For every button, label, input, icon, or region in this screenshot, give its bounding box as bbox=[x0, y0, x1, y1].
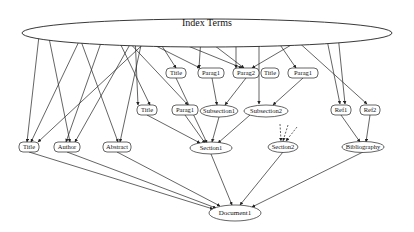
node-bibliography: Bibliography bbox=[342, 142, 384, 153]
edge-arrow bbox=[218, 115, 250, 143]
edge-arrow bbox=[120, 36, 143, 142]
node-document1: Document1 bbox=[209, 205, 261, 221]
edge-arrow bbox=[240, 152, 283, 205]
node-label: Title bbox=[264, 69, 276, 76]
node-label: Parag1 bbox=[176, 106, 194, 113]
edge-arrow bbox=[212, 78, 217, 105]
node-label: Title bbox=[170, 69, 182, 76]
node-label: Section2 bbox=[272, 143, 295, 150]
node-subsection1: Subsection1 bbox=[200, 105, 238, 117]
node-label: Ref1 bbox=[335, 106, 348, 113]
node-title: Title bbox=[166, 68, 186, 78]
edge-arrow bbox=[366, 115, 370, 142]
node-parag1: Parag1 bbox=[198, 68, 224, 78]
edges bbox=[27, 27, 370, 209]
node-ref1: Ref1 bbox=[331, 105, 351, 115]
edge-arrow bbox=[273, 78, 303, 105]
node-label: Parag2 bbox=[237, 69, 255, 76]
edge-arrow bbox=[252, 152, 363, 207]
edge-arrow bbox=[38, 36, 152, 142]
dashed-edge-arrow bbox=[280, 124, 281, 141]
node-label: Parag1 bbox=[294, 69, 312, 76]
edge-arrow bbox=[29, 152, 213, 209]
edge-arrow bbox=[66, 37, 103, 142]
node-label: Index Terms bbox=[182, 17, 232, 28]
edge-arrow bbox=[341, 115, 360, 142]
node-parag1: Parag1 bbox=[172, 105, 198, 115]
node-author: Author bbox=[54, 142, 80, 152]
node-title: Title bbox=[19, 142, 39, 152]
edge-arrow bbox=[326, 35, 340, 104]
edge-arrow bbox=[27, 27, 40, 142]
node-label: Subsection1 bbox=[203, 107, 235, 114]
edge-arrow bbox=[147, 115, 200, 143]
node-label: Author bbox=[58, 143, 77, 150]
edge-arrow bbox=[338, 35, 345, 104]
node-label: Document1 bbox=[219, 209, 252, 217]
node-section2: Section2 bbox=[268, 142, 298, 153]
node-label: Section1 bbox=[200, 144, 223, 151]
dashed-edge-arrow bbox=[283, 125, 288, 141]
nodes: Index TermsTitleParag1Parag2TitleParag1T… bbox=[19, 17, 392, 221]
edge-arrow bbox=[211, 154, 232, 205]
node-section1: Section1 bbox=[190, 142, 232, 154]
node-label: Ref2 bbox=[364, 106, 377, 113]
node-label: Abstract bbox=[106, 143, 128, 150]
node-label: Title bbox=[141, 106, 153, 113]
edge-arrow bbox=[67, 152, 216, 208]
node-parag2: Parag2 bbox=[233, 68, 259, 78]
edge-arrow bbox=[212, 117, 219, 142]
edge-arrow bbox=[75, 32, 137, 142]
document-structure-diagram: Index TermsTitleParag1Parag2TitleParag1T… bbox=[0, 0, 414, 232]
node-label: Subsection2 bbox=[250, 107, 282, 114]
node-abstract: Abstract bbox=[103, 142, 131, 152]
node-title: Title bbox=[137, 105, 157, 115]
node-label: Bibliography bbox=[346, 143, 381, 150]
node-subsection2: Subsection2 bbox=[244, 105, 288, 117]
edge-arrow bbox=[225, 78, 246, 105]
dashed-edge-arrow bbox=[286, 127, 297, 141]
edge-arrow bbox=[185, 115, 205, 143]
node-label: Title bbox=[23, 143, 35, 150]
node-title: Title bbox=[261, 68, 279, 78]
edge-arrow bbox=[31, 33, 83, 142]
node-label: Parag1 bbox=[202, 69, 220, 76]
node-ref2: Ref2 bbox=[360, 105, 380, 115]
node-parag1: Parag1 bbox=[288, 68, 318, 78]
edge-arrow bbox=[117, 152, 220, 206]
node-index-terms: Index Terms bbox=[22, 17, 392, 47]
